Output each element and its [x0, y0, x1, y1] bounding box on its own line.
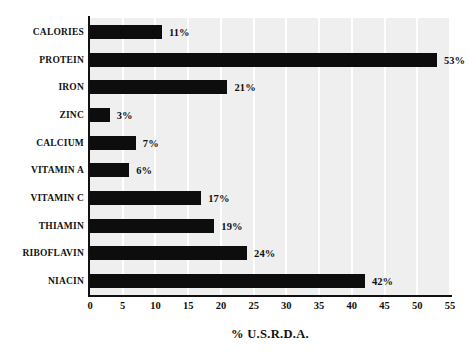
category-axis-labels: CALORIESPROTEINIRONZINCCALCIUMVITAMIN AV… [0, 18, 84, 295]
x-axis-title: % U.S.R.D.A. [90, 327, 450, 342]
bar-row: 7% [90, 136, 450, 150]
bar-value-label: 24% [254, 248, 275, 259]
category-label-zinc: ZINC [0, 110, 84, 120]
bar-value-label: 53% [444, 54, 465, 65]
bar [90, 25, 162, 39]
bar [90, 53, 437, 67]
category-label-thiamin: THIAMIN [0, 221, 84, 231]
bar-row: 6% [90, 163, 450, 177]
bar-value-label: 42% [372, 276, 393, 287]
bar-value-label: 21% [234, 82, 255, 93]
bar-value-label: 3% [117, 109, 133, 120]
category-label-iron: IRON [0, 82, 84, 92]
bar [90, 136, 136, 150]
x-tick-label: 50 [412, 300, 423, 311]
bar-row: 53% [90, 53, 450, 67]
bar [90, 219, 214, 233]
bar [90, 80, 227, 94]
x-tick-label: 25 [248, 300, 259, 311]
x-tick-label: 30 [281, 300, 292, 311]
bar [90, 191, 201, 205]
bar [90, 163, 129, 177]
category-label-protein: PROTEIN [0, 55, 84, 65]
bars-layer: 11%53%21%3%7%6%17%19%24%42% [90, 18, 450, 295]
bar-row: 11% [90, 25, 450, 39]
x-tick-label: 15 [183, 300, 194, 311]
x-axis-line [88, 295, 452, 297]
bar-row: 24% [90, 246, 450, 260]
bar-value-label: 11% [169, 26, 190, 37]
bar-row: 17% [90, 191, 450, 205]
x-tick-label: 45 [379, 300, 390, 311]
category-label-calcium: CALCIUM [0, 138, 84, 148]
bar-row: 21% [90, 80, 450, 94]
x-axis-tick-labels: 0510152025303540455055 [90, 300, 450, 316]
category-label-niacin: NIACIN [0, 276, 84, 286]
bar-row: 42% [90, 274, 450, 288]
category-label-riboflavin: RIBOFLAVIN [0, 248, 84, 258]
bar-value-label: 19% [221, 220, 242, 231]
bar [90, 274, 365, 288]
category-label-vitamin-a: VITAMIN A [0, 165, 84, 175]
bar-row: 3% [90, 108, 450, 122]
x-tick-label: 10 [150, 300, 161, 311]
bar-value-label: 6% [136, 165, 152, 176]
bar-chart: 11%53%21%3%7%6%17%19%24%42% CALORIESPROT… [0, 0, 472, 354]
x-tick-label: 35 [314, 300, 325, 311]
x-tick-label: 5 [120, 300, 125, 311]
x-tick-label: 55 [445, 300, 456, 311]
bar [90, 246, 247, 260]
bar-value-label: 7% [143, 137, 159, 148]
x-tick-label: 20 [216, 300, 227, 311]
x-tick-label: 40 [347, 300, 358, 311]
x-tick-label: 0 [87, 300, 92, 311]
bar [90, 108, 110, 122]
bar-value-label: 17% [208, 193, 229, 204]
category-label-vitamin-c: VITAMIN C [0, 193, 84, 203]
bar-row: 19% [90, 219, 450, 233]
category-label-calories: CALORIES [0, 27, 84, 37]
